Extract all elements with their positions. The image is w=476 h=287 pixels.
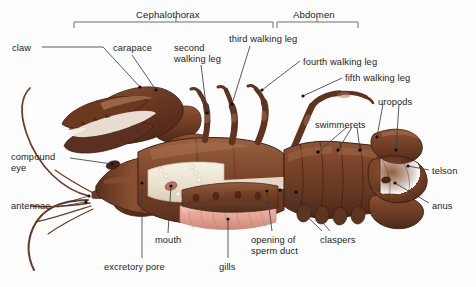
claspers-leader-b-dot — [294, 190, 297, 193]
gills-leader-dot — [226, 217, 229, 220]
bracket-label-abdomen: Abdomen — [293, 10, 335, 21]
third-walking-leg-leader-dot — [230, 102, 233, 105]
label-claw: claw — [12, 43, 31, 54]
third-walking-leg-leader — [232, 46, 250, 104]
swimmerets-leader-a-dot — [316, 150, 319, 153]
abdomen-illustration — [278, 141, 380, 226]
anus-leader-dot — [393, 181, 396, 184]
label-gills: gills — [219, 262, 236, 273]
label-second-walking-leg: secondwalking leg — [174, 43, 221, 64]
label-fifth-walking-leg: fifth walking leg — [345, 73, 410, 84]
leg-bases-illustration — [182, 183, 278, 213]
fourth-walking-leg-leader — [262, 61, 300, 90]
label-telson: telson — [432, 166, 457, 177]
swimmerets-leader-b-dot — [336, 148, 339, 151]
carapace-leader — [132, 55, 156, 90]
excretory-pore-leader-dot — [140, 181, 143, 184]
label-mouth: mouth — [155, 235, 181, 246]
uropods-leader-a-dot — [375, 135, 378, 138]
label-excretory-pore: excretory pore — [104, 262, 165, 273]
label-fourth-walking-leg: fourth walking leg — [303, 57, 377, 68]
fifth-walking-leg-leader-dot — [301, 94, 304, 97]
sperm-duct-leader-dot — [265, 189, 268, 192]
compound-eye-leader — [70, 158, 112, 164]
label-anus: anus — [432, 201, 453, 212]
mouth-leader-dot — [169, 184, 172, 187]
label-carapace: carapace — [113, 43, 152, 54]
label-claspers: claspers — [320, 235, 355, 246]
carapace-leader-dot — [154, 88, 157, 91]
label-compound-eye: compoundeye — [11, 152, 55, 173]
uropods-leader-b-dot — [394, 148, 397, 151]
bracket-label-cephalothorax: Cephalothorax — [136, 10, 200, 21]
claw-leader-dot — [138, 85, 141, 88]
label-third-walking-leg: third walking leg — [229, 34, 297, 45]
antennae-leader-b-dot — [84, 200, 87, 203]
fourth-walking-leg-leader-dot — [260, 88, 263, 91]
lobster-anatomy-figure: CephalothoraxAbdomen clawcarapacesecondw… — [0, 0, 476, 287]
antennae-leader-a-dot — [87, 194, 90, 197]
label-uropods: uropods — [378, 97, 412, 108]
tail-fan-illustration — [368, 129, 427, 228]
telson-leader-dot — [406, 164, 409, 167]
second-walking-leg-leader-dot — [205, 111, 208, 114]
label-antennae: antennae — [11, 201, 51, 212]
label-swimmerets: swimmerets — [315, 120, 366, 131]
label-opening-of-sperm-duct: opening ofsperm duct — [251, 235, 298, 256]
claspers-leader-a-dot — [278, 188, 281, 191]
compound-eye-leader-dot — [110, 162, 113, 165]
swimmerets-leader-c-dot — [358, 148, 361, 151]
